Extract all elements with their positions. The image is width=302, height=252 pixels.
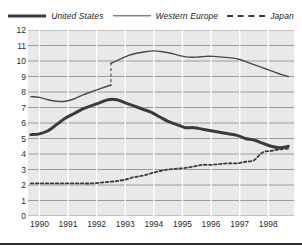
- plot-area: [28, 30, 294, 216]
- x-tick-label: 1997: [230, 220, 249, 229]
- chart-legend: United States Western Europe Japan: [0, 6, 302, 26]
- y-tick-label: 4: [2, 150, 26, 159]
- y-tick-label: 10: [2, 57, 26, 66]
- y-tick-label: 6: [2, 119, 26, 128]
- legend-entry-western-europe: Western Europe: [113, 11, 219, 21]
- legend-line-dashed-icon: [227, 11, 265, 21]
- series-line-western-europe: [111, 51, 288, 77]
- x-axis-tick-labels: 199019911992199319941995199619971998: [28, 220, 294, 234]
- plot-region: [28, 30, 294, 216]
- chart-figure: United States Western Europe Japan 01234…: [0, 0, 302, 252]
- legend-line-thick-icon: [8, 11, 46, 21]
- y-tick-label: 7: [2, 103, 26, 112]
- y-tick-label: 0: [2, 212, 26, 221]
- legend-line-thin-icon: [113, 11, 151, 21]
- y-tick-label: 8: [2, 88, 26, 97]
- y-tick-label: 1: [2, 196, 26, 205]
- x-tick-label: 1996: [202, 220, 221, 229]
- series-line-western-europe: [31, 85, 111, 102]
- x-tick-label: 1994: [144, 220, 163, 229]
- legend-label-japan: Japan: [270, 11, 294, 21]
- legend-entry-japan: Japan: [227, 11, 294, 21]
- x-tick-label: 1991: [59, 220, 78, 229]
- chart-svg: [28, 30, 294, 216]
- x-tick-label: 1995: [173, 220, 192, 229]
- series-line-united-states: [31, 99, 288, 147]
- x-tick-label: 1993: [116, 220, 135, 229]
- y-axis-tick-labels: 0123456789101112: [0, 30, 26, 216]
- y-tick-label: 9: [2, 72, 26, 81]
- bottom-rule: [0, 243, 302, 245]
- legend-entry-united-states: United States: [8, 11, 103, 21]
- x-tick-label: 1998: [259, 220, 278, 229]
- y-tick-label: 12: [2, 26, 26, 35]
- x-tick-label: 1990: [30, 220, 49, 229]
- y-tick-label: 3: [2, 165, 26, 174]
- legend-label-western-europe: Western Europe: [156, 11, 219, 21]
- legend-label-united-states: United States: [51, 11, 103, 21]
- y-tick-label: 5: [2, 134, 26, 143]
- x-tick-label: 1992: [87, 220, 106, 229]
- y-tick-label: 11: [2, 41, 26, 50]
- y-tick-label: 2: [2, 181, 26, 190]
